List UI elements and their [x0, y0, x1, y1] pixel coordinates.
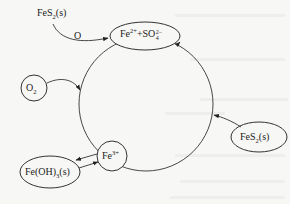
arrow-hydroxide-to-ferric — [79, 162, 98, 168]
formula-base: Fe(OH) — [25, 166, 56, 177]
formula-state: (s) — [56, 7, 67, 18]
top-pyrite-label: FeS2(s) — [37, 8, 66, 18]
iron-symbol: Fe — [120, 28, 130, 39]
oxygen-label: O2 — [26, 83, 36, 93]
sulfate-label: Fe2++SO2−4 — [120, 29, 162, 41]
formula-base: FeS — [240, 131, 256, 142]
formula-base: Fe — [102, 150, 112, 161]
sulfate-symbol: +SO — [137, 28, 155, 39]
formula-charge: 3+ — [112, 149, 119, 156]
right-pyrite-label: FeS2(s) — [240, 132, 269, 142]
formula-subscript: 2 — [33, 88, 36, 95]
formula-state: (s) — [59, 166, 70, 177]
edge-label-o: O — [74, 31, 81, 41]
arrow-pyrite-right-to-cycle — [214, 115, 241, 127]
arrow-ferric-to-hydroxide — [76, 154, 97, 160]
reaction-cycle-diagram: FeS2(s) O Fe2++SO2−4 O2 Fe3+ Fe(OH)3(s) … — [0, 0, 290, 204]
sulfate-sub-sup: 2−4 — [156, 29, 162, 41]
ferric-hydroxide-label: Fe(OH)3(s) — [25, 167, 70, 177]
formula-base: FeS — [37, 7, 53, 18]
iron-charge: 2+ — [130, 27, 137, 34]
arrow-cycle-to-sulfate — [178, 42, 180, 44]
ferric-ion-label: Fe3+ — [102, 151, 119, 161]
sulfate-subscript: 4 — [156, 35, 162, 41]
arrow-oxygen-to-cycle — [47, 79, 80, 90]
formula-state: (s) — [259, 131, 270, 142]
